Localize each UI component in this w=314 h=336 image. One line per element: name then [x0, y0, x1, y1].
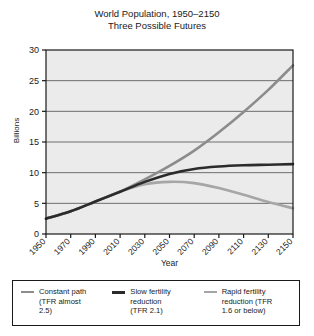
legend-swatch-icon: [204, 291, 217, 293]
svg-text:10: 10: [29, 168, 39, 178]
svg-text:20: 20: [29, 107, 39, 117]
legend-item-slow-reduction[interactable]: Slow fertility reduction (TFR 2.1): [112, 287, 203, 321]
legend-swatch-icon: [112, 291, 125, 294]
y-axis: 051015202530: [29, 45, 46, 239]
svg-text:2090: 2090: [200, 236, 221, 257]
svg-text:30: 30: [29, 45, 39, 55]
chart-figure: 051015202530 195019701990201020302050207…: [0, 0, 314, 275]
svg-text:2130: 2130: [249, 236, 270, 257]
legend-item-label: Slow fertility reduction (TFR 2.1): [130, 287, 171, 316]
svg-text:5: 5: [34, 199, 39, 209]
y-axis-title: Billions: [12, 101, 21, 161]
legend-item-label: Constant path (TFR almost 2.5): [39, 287, 86, 316]
legend-item-label: Rapid fertility reduction (TFR 1.6 or be…: [222, 287, 273, 316]
svg-text:2050: 2050: [150, 236, 171, 257]
chart-legend: Constant path (TFR almost 2.5) Slow fert…: [12, 280, 300, 326]
svg-text:2030: 2030: [126, 236, 147, 257]
legend-item-constant-path[interactable]: Constant path (TFR almost 2.5): [21, 287, 112, 321]
x-axis-title: Year: [46, 258, 293, 268]
legend-swatch-icon: [21, 291, 34, 293]
svg-text:2070: 2070: [175, 236, 196, 257]
population-line-chart: 051015202530 195019701990201020302050207…: [0, 0, 314, 275]
svg-text:1990: 1990: [76, 236, 97, 257]
svg-text:2010: 2010: [101, 236, 122, 257]
svg-text:15: 15: [29, 137, 39, 147]
svg-text:1970: 1970: [52, 236, 73, 257]
legend-item-rapid-reduction[interactable]: Rapid fertility reduction (TFR 1.6 or be…: [204, 287, 295, 321]
svg-text:25: 25: [29, 76, 39, 86]
svg-text:2110: 2110: [225, 236, 245, 256]
x-axis: 1950197019902010203020502070209021102130…: [27, 234, 295, 257]
svg-text:1950: 1950: [27, 236, 48, 257]
svg-text:2150: 2150: [274, 236, 295, 257]
